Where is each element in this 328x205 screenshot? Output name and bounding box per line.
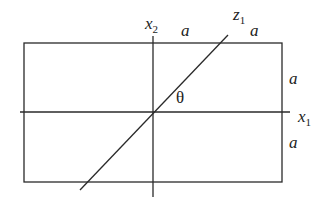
theta-label: θ	[176, 88, 184, 107]
dimension-label-top-left: a	[181, 21, 190, 40]
x1-axis-label: x1	[297, 107, 311, 128]
x2-axis-label: x2	[144, 14, 158, 35]
dimension-label-top-right: a	[250, 21, 259, 40]
z1-axis-label: z1	[232, 5, 245, 26]
diagram-canvas: x2 z1 x1 θ a a a a	[0, 0, 328, 205]
dimension-label-right-upper: a	[289, 69, 298, 88]
dimension-label-right-lower: a	[289, 133, 298, 152]
